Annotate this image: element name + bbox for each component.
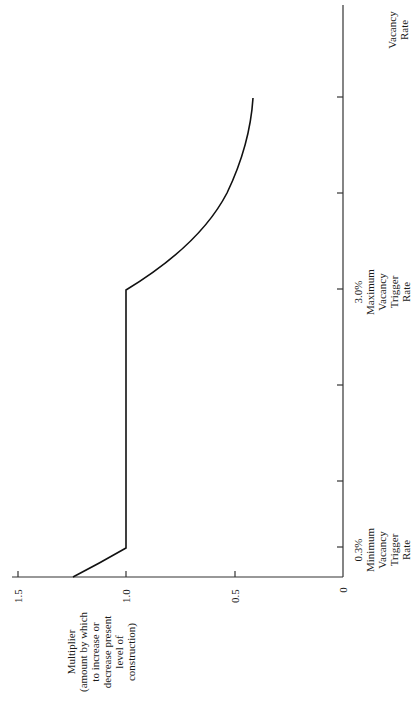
svg-text:Vacancy: Vacancy bbox=[376, 273, 388, 311]
svg-text:Rate: Rate bbox=[400, 282, 412, 302]
svg-text:construction): construction) bbox=[125, 623, 138, 681]
svg-text:to increase or: to increase or bbox=[89, 622, 101, 682]
svg-text:Trigger: Trigger bbox=[388, 275, 400, 308]
tick-label-zero: 0 bbox=[337, 587, 349, 593]
svg-text:3.0%: 3.0% bbox=[352, 281, 364, 304]
chart-canvas: 1.5 1.0 0.5 0 Multiplier (amount by whic… bbox=[0, 0, 417, 704]
tick-label-1-0: 1.0 bbox=[120, 589, 132, 603]
multiplier-axis-title: Multiplier (amount by which to increase … bbox=[65, 611, 138, 692]
svg-text:Rate: Rate bbox=[400, 540, 412, 560]
svg-text:Multiplier: Multiplier bbox=[65, 629, 77, 674]
svg-text:Maximum: Maximum bbox=[364, 269, 376, 315]
svg-text:Vacancy: Vacancy bbox=[386, 11, 398, 49]
multiplier-curve bbox=[73, 98, 253, 577]
multiplier-ticks bbox=[18, 571, 235, 577]
min-trigger-label: 0.3% Minimum Vacancy Trigger Rate bbox=[352, 528, 412, 572]
tick-label-1-5: 1.5 bbox=[12, 589, 24, 603]
max-trigger-label: 3.0% Maximum Vacancy Trigger Rate bbox=[352, 269, 412, 315]
vacancy-axis-title: Vacancy Rate bbox=[386, 11, 410, 49]
svg-text:Vacancy: Vacancy bbox=[376, 531, 388, 569]
svg-text:Rate: Rate bbox=[398, 20, 410, 40]
svg-text:Trigger: Trigger bbox=[388, 533, 400, 566]
vacancy-ticks bbox=[337, 97, 343, 547]
svg-text:level of: level of bbox=[113, 635, 125, 669]
svg-text:decrease present: decrease present bbox=[101, 616, 113, 688]
svg-text:0.3%: 0.3% bbox=[352, 539, 364, 562]
tick-label-0-5: 0.5 bbox=[229, 589, 241, 603]
svg-text:Minimum: Minimum bbox=[364, 528, 376, 572]
